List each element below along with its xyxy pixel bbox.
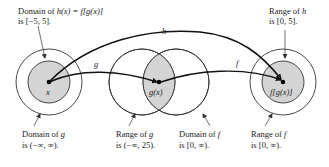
composition-diagram: x g(x) f[g(x)] g f h Domain of h(x) = f[… [0, 0, 329, 167]
svg-text:is [0, ∞).: is [0, ∞). [179, 140, 209, 150]
pointer-domain-g [34, 114, 40, 126]
svg-text:is [0, ∞).: is [0, ∞). [251, 140, 281, 150]
annotation-range-g: Range of g is (−∞, 25). [116, 129, 155, 150]
pointer-range-f [265, 114, 272, 126]
point-fgx [281, 80, 286, 85]
label-g: g [94, 59, 98, 69]
svg-text:is (−∞, 25).: is (−∞, 25). [116, 140, 155, 150]
svg-text:Domain of f: Domain of f [179, 129, 222, 139]
svg-text:is [−5, 5].: is [−5, 5]. [18, 16, 51, 26]
label-h: h [162, 26, 166, 36]
point-gx [157, 80, 162, 85]
label-f: f [236, 58, 240, 68]
svg-text:is (−∞, ∞).: is (−∞, ∞). [22, 140, 59, 150]
label-x: x [45, 87, 50, 97]
point-x [47, 80, 52, 85]
label-fgx: f[g(x)] [270, 87, 293, 97]
annotation-range-h: Range of h is [0, 5]. [269, 6, 306, 26]
svg-text:is [0, 5].: is [0, 5]. [269, 16, 297, 26]
svg-text:Range of h: Range of h [269, 6, 306, 16]
svg-text:Range of g: Range of g [116, 129, 153, 139]
annotation-range-f: Range of f is [0, ∞). [251, 129, 288, 150]
pointer-range-g [129, 114, 135, 126]
annotation-domain-h: Domain of h(x) = f[g(x)] is [−5, 5]. [18, 6, 103, 26]
diagram-canvas: x g(x) f[g(x)] g f h Domain of h(x) = f[… [0, 0, 329, 167]
annotation-domain-f: Domain of f is [0, ∞). [179, 129, 222, 150]
pointer-domain-f [203, 114, 210, 126]
annotation-domain-g: Domain of g is (−∞, ∞). [22, 129, 65, 150]
label-gx: g(x) [149, 87, 163, 97]
svg-text:Domain of g: Domain of g [22, 129, 65, 139]
svg-text:Range of f: Range of f [251, 129, 288, 139]
svg-text:Domain of h(x) = f[g(x)]: Domain of h(x) = f[g(x)] [18, 6, 103, 16]
